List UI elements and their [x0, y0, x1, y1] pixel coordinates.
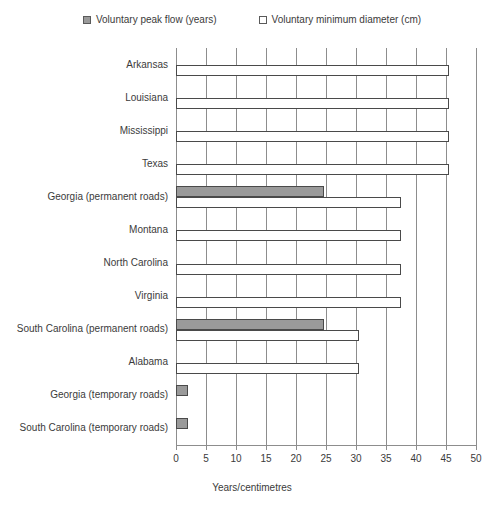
- bar-group: [176, 48, 476, 81]
- category-label: Arkansas: [0, 59, 168, 71]
- x-tick-35: [386, 445, 387, 450]
- bar-peak-flow: [176, 319, 324, 330]
- x-tick-label: 40: [410, 452, 421, 465]
- x-tick-15: [266, 445, 267, 450]
- bar-minimum-diameter: [176, 297, 401, 308]
- bar-peak-flow: [176, 186, 324, 197]
- bar-peak-flow: [176, 418, 188, 429]
- x-tick-45: [446, 445, 447, 450]
- x-tick-label: 5: [203, 452, 209, 465]
- bar-group: [176, 280, 476, 313]
- bar-group: [176, 379, 476, 412]
- x-axis-tick-labels: 05101520253035404550: [176, 452, 476, 466]
- x-tick-label: 15: [260, 452, 271, 465]
- x-axis-title-text: Years/centimetres: [212, 482, 292, 493]
- x-tick-label: 45: [440, 452, 451, 465]
- bar-minimum-diameter: [176, 264, 401, 275]
- legend-swatch-minimum-diameter-icon: [259, 16, 267, 24]
- category-label: Louisiana: [0, 92, 168, 104]
- gridline-50: [476, 48, 477, 445]
- category-label: Mississippi: [0, 125, 168, 137]
- x-tick-label: 0: [173, 452, 179, 465]
- bar-group: [176, 81, 476, 114]
- bar-group: [176, 114, 476, 147]
- x-tick-30: [356, 445, 357, 450]
- bar-minimum-diameter: [176, 98, 449, 109]
- legend-label-minimum-diameter: Voluntary minimum diameter (cm): [272, 14, 421, 26]
- category-label: Virginia: [0, 290, 168, 302]
- bar-group: [176, 147, 476, 180]
- x-tick-label: 10: [230, 452, 241, 465]
- bar-minimum-diameter: [176, 330, 359, 341]
- x-tick-10: [236, 445, 237, 450]
- bar-chart: Voluntary peak flow (years) Voluntary mi…: [0, 0, 504, 513]
- category-label: Montana: [0, 224, 168, 236]
- category-label: North Carolina: [0, 257, 168, 269]
- category-label: Texas: [0, 158, 168, 170]
- x-tick-label: 35: [380, 452, 391, 465]
- category-label: South Carolina (temporary roads): [0, 422, 168, 434]
- bar-group: [176, 412, 476, 445]
- bar-minimum-diameter: [176, 65, 449, 76]
- category-axis-labels: ArkansasLouisianaMississippiTexasGeorgia…: [0, 48, 168, 445]
- chart-legend: Voluntary peak flow (years) Voluntary mi…: [0, 14, 504, 26]
- bar-minimum-diameter: [176, 230, 401, 241]
- bar-minimum-diameter: [176, 197, 401, 208]
- bar-minimum-diameter: [176, 164, 449, 175]
- bar-group: [176, 247, 476, 280]
- x-tick-label: 20: [290, 452, 301, 465]
- legend-entry-peak-flow: Voluntary peak flow (years): [83, 14, 217, 26]
- x-tick-5: [206, 445, 207, 450]
- category-label: South Carolina (permanent roads): [0, 323, 168, 335]
- x-tick-20: [296, 445, 297, 450]
- category-label: Georgia (temporary roads): [0, 389, 168, 401]
- x-tick-label: 50: [470, 452, 481, 465]
- bar-group: [176, 346, 476, 379]
- x-tick-40: [416, 445, 417, 450]
- x-tick-50: [476, 445, 477, 450]
- bar-minimum-diameter: [176, 363, 359, 374]
- x-tick-25: [326, 445, 327, 450]
- category-label: Georgia (permanent roads): [0, 191, 168, 203]
- legend-entry-minimum-diameter: Voluntary minimum diameter (cm): [259, 14, 421, 26]
- bar-rows: [176, 48, 476, 445]
- category-label: Alabama: [0, 356, 168, 368]
- x-tick-0: [176, 445, 177, 450]
- legend-swatch-peak-flow-icon: [83, 16, 91, 24]
- bar-group: [176, 180, 476, 213]
- x-axis-title: Years/centimetres: [0, 482, 504, 493]
- bar-peak-flow: [176, 385, 188, 396]
- x-axis-ticks: [176, 445, 476, 451]
- bar-group: [176, 213, 476, 246]
- legend-label-peak-flow: Voluntary peak flow (years): [96, 14, 217, 26]
- bar-minimum-diameter: [176, 131, 449, 142]
- plot-area: [176, 48, 476, 445]
- bar-group: [176, 313, 476, 346]
- x-tick-label: 25: [320, 452, 331, 465]
- x-tick-label: 30: [350, 452, 361, 465]
